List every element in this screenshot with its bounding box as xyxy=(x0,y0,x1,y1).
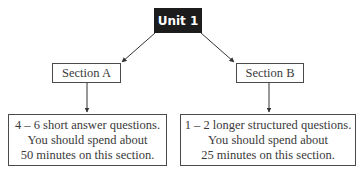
section-b-detail-line: You should spend about xyxy=(208,133,328,148)
unit-1-node: Unit 1 xyxy=(154,8,202,33)
section-b-details: 1 – 2 longer structured questions. You s… xyxy=(180,114,356,166)
unit-1-label: Unit 1 xyxy=(158,14,199,28)
section-b-label: Section B xyxy=(246,66,295,81)
section-a-detail-line: You should spend about xyxy=(28,133,148,148)
section-b-node: Section B xyxy=(236,63,304,83)
arrow-unit-to-section-a xyxy=(122,33,155,62)
section-b-detail-line: 25 minutes on this section. xyxy=(201,148,335,163)
section-a-details: 4 – 6 short answer questions. You should… xyxy=(8,114,167,166)
section-b-detail-line: 1 – 2 longer structured questions. xyxy=(185,118,352,133)
section-a-node: Section A xyxy=(52,63,121,83)
arrow-unit-to-section-b xyxy=(201,33,234,62)
section-a-detail-line: 4 – 6 short answer questions. xyxy=(15,118,160,133)
section-a-label: Section A xyxy=(62,66,111,81)
section-a-detail-line: 50 minutes on this section. xyxy=(21,148,155,163)
